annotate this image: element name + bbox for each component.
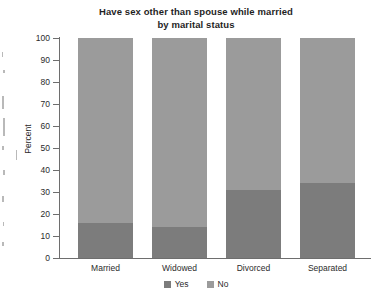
chart-title-line-2: by marital status: [0, 19, 392, 32]
y-axis-tick-label: 40: [18, 166, 50, 175]
y-axis-tick-label: 70: [18, 100, 50, 109]
y-axis-tick-label: 0: [18, 254, 50, 263]
bar-group: [78, 38, 133, 258]
y-axis-title: Percent: [23, 109, 33, 169]
y-axis-tick: [53, 60, 59, 61]
y-axis-tick: [53, 82, 59, 83]
y-axis-tick-label: 50: [18, 144, 50, 153]
y-axis-tick-label: 10: [18, 232, 50, 241]
chart-title: Have sex other than spouse while married…: [0, 6, 392, 31]
legend-label: No: [218, 280, 229, 289]
bar-segment-yes: [152, 227, 207, 258]
y-axis-tick: [53, 126, 59, 127]
bar-segment-yes: [78, 223, 133, 258]
bar-segment-no: [152, 38, 207, 227]
bar-group: [152, 38, 207, 258]
y-axis-tick: [53, 104, 59, 105]
bar-group: [226, 38, 281, 258]
legend-item[interactable]: Yes: [164, 280, 189, 289]
scan-edge-artifacts: [0, 0, 9, 300]
y-axis-tick-label: 60: [18, 122, 50, 131]
bar-group: [300, 38, 355, 258]
bar-segment-no: [226, 38, 281, 190]
bar-segment-no: [300, 38, 355, 183]
y-axis-tick: [53, 170, 59, 171]
y-axis-tick: [53, 258, 59, 259]
y-axis-tick-label: 20: [18, 210, 50, 219]
y-axis-tick: [53, 38, 59, 39]
x-axis-line: [59, 258, 371, 259]
y-axis-tick: [53, 236, 59, 237]
chart-title-line-1: Have sex other than spouse while married: [0, 6, 392, 19]
bar-segment-yes: [226, 190, 281, 258]
y-axis-tick-label: 30: [18, 188, 50, 197]
bar-segment-yes: [300, 183, 355, 258]
x-axis-tick-label: Separated: [283, 263, 373, 273]
y-axis-tick: [53, 192, 59, 193]
y-axis-tick: [53, 148, 59, 149]
chart-legend: YesNo: [0, 280, 392, 289]
legend-swatch-icon: [164, 281, 171, 288]
legend-item[interactable]: No: [207, 280, 229, 289]
y-axis-tick-label: 90: [18, 56, 50, 65]
stacked-bar-chart-figure: Have sex other than spouse while married…: [0, 0, 392, 300]
legend-label: Yes: [175, 280, 189, 289]
y-axis-tick: [53, 214, 59, 215]
legend-swatch-icon: [207, 281, 214, 288]
plot-area: [60, 38, 370, 258]
bar-segment-no: [78, 38, 133, 223]
y-axis-tick-label: 100: [18, 34, 50, 43]
y-axis-tick-label: 80: [18, 78, 50, 87]
